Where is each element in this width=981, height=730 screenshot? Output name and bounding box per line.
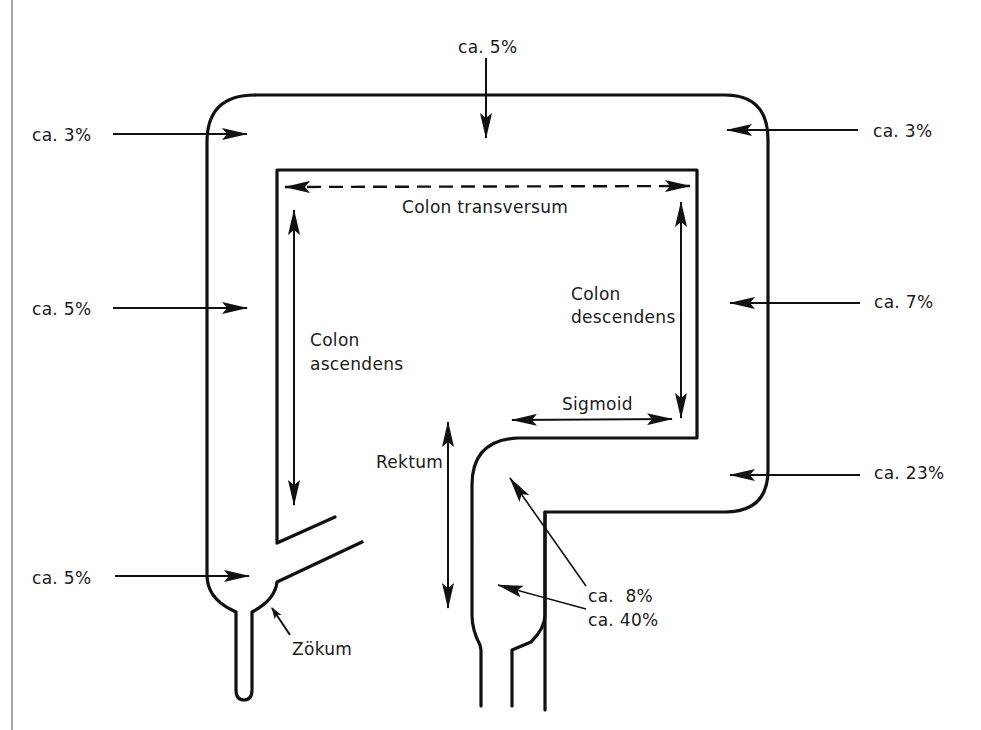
label-descendens-2: descendens [571,307,676,327]
zoekum-pointer [272,608,290,635]
pct-top-right: ca. 3% [873,121,932,141]
label-transversum: Colon transversum [402,197,568,217]
label-sigmoid: Sigmoid [562,394,633,414]
pct-bottom-left: ca. 5% [32,568,91,588]
label-zoekum: Zökum [292,639,352,659]
pct-mid-left: ca. 5% [32,299,91,319]
pct-top-left: ca. 3% [32,125,91,145]
pct-rektum: ca. 40% [588,610,658,630]
arrow-sigmoid-rektum [510,478,586,586]
label-descendens-1: Colon [571,284,621,304]
colon-diagram: Colon transversum Colon ascendens Colon … [0,0,981,730]
arrow-rektum [498,585,586,609]
transversum-arrow [285,186,690,187]
pct-top-center: ca. 5% [458,37,517,57]
label-ascendens-2: ascendens [310,354,403,374]
label-ascendens-1: Colon [310,330,360,350]
pct-sigmoid-rektum: ca. 8% [588,586,653,606]
rektum-right-wall [512,512,545,706]
pct-mid-right: ca. 7% [874,292,933,312]
sigmoid-arrow [512,419,672,420]
label-rektum: Rektum [376,452,443,472]
pct-lower-right: ca. 23% [874,463,944,483]
